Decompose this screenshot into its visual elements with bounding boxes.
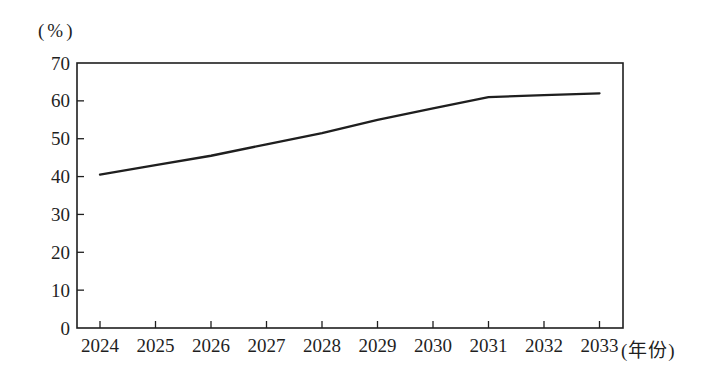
y-tick-label: 50 — [51, 128, 70, 149]
y-tick-label: 10 — [51, 280, 70, 301]
chart-canvas: 0102030405060702024202520262027202820292… — [0, 0, 727, 378]
y-tick-label: 20 — [51, 242, 70, 263]
y-tick-label: 0 — [61, 318, 71, 339]
x-tick-label: 2028 — [303, 335, 341, 356]
x-tick-label: 2031 — [470, 335, 508, 356]
y-tick-label: 70 — [51, 53, 70, 74]
x-tick-label: 2024 — [81, 335, 120, 356]
y-tick-label: 40 — [51, 166, 70, 187]
x-tick-label: 2032 — [525, 335, 563, 356]
plot-border — [77, 63, 623, 328]
x-tick-label: 2026 — [192, 335, 230, 356]
x-tick-label: 2027 — [248, 335, 286, 356]
y-tick-label: 60 — [51, 90, 70, 111]
data-line — [100, 93, 600, 174]
y-tick-label: 30 — [51, 204, 70, 225]
y-axis-unit-label: (%) — [38, 20, 75, 42]
x-tick-label: 2030 — [414, 335, 452, 356]
line-chart-figure: (%) 010203040506070202420252026202720282… — [0, 0, 727, 378]
x-tick-label: 2033 — [581, 335, 619, 356]
x-tick-label: 2029 — [359, 335, 397, 356]
x-axis-unit-label: (年份) — [621, 335, 676, 362]
x-tick-label: 2025 — [137, 335, 175, 356]
